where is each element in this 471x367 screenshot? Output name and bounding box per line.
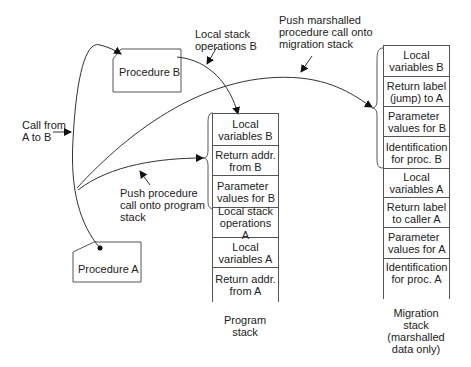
- migration-stack-cell: Parametervalues for B: [384, 107, 449, 137]
- push-procedure-label: Push procedure call onto program stack: [120, 187, 205, 223]
- call-from-label: Call from A to B: [22, 119, 66, 143]
- program-stack-cell: Localvariables B: [213, 114, 278, 146]
- migration-stack-cell: Identificationfor proc. B: [384, 137, 449, 169]
- push-marshalled-label: Push marshalled procedure call onto migr…: [279, 14, 373, 50]
- local-stack-ops-b-label: Local stack operations B: [195, 28, 257, 52]
- program-stack-title: Program stack: [222, 314, 268, 338]
- procedure-a-label: Procedure A: [78, 263, 139, 275]
- program-stack-cell: Local stackoperations A: [213, 208, 278, 238]
- program-stack-cell: Localvariables A: [213, 238, 278, 268]
- migration-stack-cell: Identificationfor proc. A: [384, 259, 449, 299]
- migration-stack-cell: Return labelto caller A: [384, 198, 449, 228]
- procedure-b-label: Procedure B: [119, 66, 180, 78]
- migration-stack-cell: Localvariables B: [384, 46, 449, 77]
- program-push-curve: [78, 158, 203, 190]
- migration-stack-cell: Parametervalues for A: [384, 228, 449, 259]
- program-stack: Localvariables B Return addr.from B Para…: [212, 113, 279, 302]
- migration-stack-cell: Return label(jump) to A: [384, 77, 449, 107]
- migration-stack-brace: [372, 48, 383, 168]
- call-origin-dot: [98, 246, 103, 251]
- program-stack-cell: Parametervalues for B: [213, 176, 278, 208]
- program-stack-cell: Return addr.from B: [213, 146, 278, 176]
- program-stack-cell: Return addr.from A: [213, 268, 278, 302]
- procedure-a-shape: [73, 242, 141, 282]
- migration-stack: Localvariables B Return label(jump) to A…: [383, 45, 450, 299]
- migration-stack-title: Migration stack (marshalled data only): [380, 307, 452, 355]
- migration-stack-cell: Localvariables A: [384, 169, 449, 198]
